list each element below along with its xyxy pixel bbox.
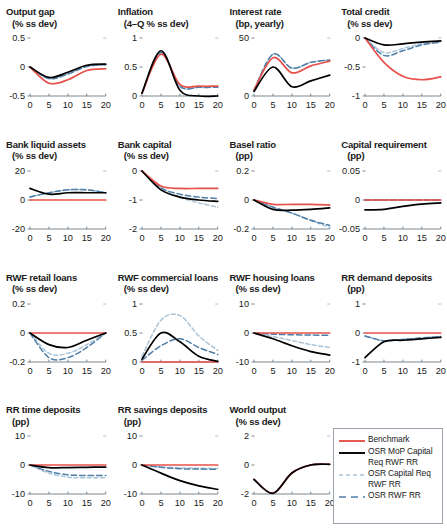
svg-text:15: 15 <box>193 365 203 375</box>
svg-text:5: 5 <box>382 100 387 110</box>
panel-subtitle: (% ss dev) <box>236 283 336 295</box>
panel-title: Interest rate <box>230 6 334 18</box>
svg-text:5: 5 <box>158 365 163 375</box>
svg-text:10: 10 <box>63 365 73 375</box>
svg-text:20: 20 <box>101 232 111 242</box>
panel-subtitle: (pp) <box>236 150 336 162</box>
svg-text:15: 15 <box>193 100 203 110</box>
svg-text:0: 0 <box>139 232 144 242</box>
legend-swatch-icon <box>338 434 368 443</box>
panel-subtitle: (% ss dev) <box>12 283 112 295</box>
chart-panel: Bank liquid assets(% ss dev)05101520200-… <box>0 133 112 266</box>
svg-text:10: 10 <box>286 365 296 375</box>
chart-legend: BenchmarkOSR MoP Capital Req RWF RROSR C… <box>333 428 443 524</box>
panel-subtitle: (% ss dev) <box>236 416 336 428</box>
panel-plot-area: 0510152010.50 <box>112 296 224 382</box>
svg-text:0: 0 <box>363 365 368 375</box>
svg-text:0: 0 <box>20 328 25 338</box>
svg-text:-1: -1 <box>352 91 360 101</box>
panel-subtitle: (pp) <box>124 416 224 428</box>
svg-text:20: 20 <box>101 498 111 508</box>
chart-panel: Bank capital(% ss dev)051015200-1-2 <box>112 133 224 266</box>
panel-subtitle: (4–Q % ss dev) <box>124 18 224 30</box>
panel-title: Basel ratio <box>230 139 334 151</box>
svg-text:-0.2: -0.2 <box>9 357 25 367</box>
legend-item: OSR Capital Req RWF RR <box>338 468 439 489</box>
svg-text:10: 10 <box>175 498 185 508</box>
chart-panel: RWF commercial loans(% ss dev)0510152010… <box>112 266 224 399</box>
svg-text:10: 10 <box>398 232 408 242</box>
svg-text:10: 10 <box>175 232 185 242</box>
svg-text:0.5: 0.5 <box>12 33 25 43</box>
series-line <box>142 332 218 361</box>
chart-panel: Capital requirement(pp)051015200.050-0.0… <box>335 133 447 266</box>
series-line <box>254 333 330 355</box>
panel-title: RR time deposits <box>6 404 110 416</box>
series-line <box>254 464 330 493</box>
svg-text:0: 0 <box>363 100 368 110</box>
panel-plot-area: 05101520100-10 <box>224 296 336 382</box>
svg-text:0: 0 <box>132 461 137 471</box>
panel-title: RR demand deposits <box>341 272 445 284</box>
legend-item: OSR MoP Capital Req RWF RR <box>338 446 439 467</box>
svg-text:-1: -1 <box>129 195 137 205</box>
svg-text:-10: -10 <box>235 357 248 367</box>
svg-text:15: 15 <box>305 498 315 508</box>
svg-text:50: 50 <box>238 33 248 43</box>
svg-text:0: 0 <box>355 33 360 43</box>
panel-subtitle: (% ss dev) <box>124 150 224 162</box>
legend-label: OSR RWF RR <box>368 490 421 501</box>
svg-text:10: 10 <box>63 498 73 508</box>
svg-text:0: 0 <box>132 357 137 367</box>
svg-text:5: 5 <box>46 100 51 110</box>
svg-text:5: 5 <box>158 100 163 110</box>
legend-item: OSR RWF RR <box>338 490 439 501</box>
svg-text:0: 0 <box>243 328 248 338</box>
svg-text:0: 0 <box>20 461 25 471</box>
svg-text:-2: -2 <box>129 224 137 234</box>
svg-text:0: 0 <box>251 100 256 110</box>
chart-panel: RWF retail loans(% ss dev)051015200.20-0… <box>0 266 112 399</box>
legend-label: Benchmark <box>368 434 409 445</box>
panel-title: RWF commercial loans <box>118 272 222 284</box>
panel-subtitle: (% ss dev) <box>124 283 224 295</box>
svg-text:10: 10 <box>63 100 73 110</box>
svg-text:20: 20 <box>101 100 111 110</box>
svg-text:10: 10 <box>175 365 185 375</box>
svg-text:0: 0 <box>27 498 32 508</box>
series-line <box>254 464 330 493</box>
panel-subtitle: (% ss dev) <box>347 18 447 30</box>
legend-swatch-icon <box>338 446 368 455</box>
svg-text:15: 15 <box>82 498 92 508</box>
series-line <box>365 203 441 210</box>
legend-swatch-icon <box>338 468 368 477</box>
svg-text:10: 10 <box>286 100 296 110</box>
svg-text:-10: -10 <box>123 490 136 500</box>
series-line <box>365 337 441 357</box>
panel-title: Bank capital <box>118 139 222 151</box>
svg-text:0: 0 <box>243 91 248 101</box>
svg-text:10: 10 <box>127 432 137 442</box>
svg-text:5: 5 <box>270 365 275 375</box>
svg-text:10: 10 <box>63 232 73 242</box>
svg-text:0: 0 <box>20 62 25 72</box>
svg-text:-2: -2 <box>240 490 248 500</box>
svg-text:0: 0 <box>20 195 25 205</box>
svg-text:0: 0 <box>132 166 137 176</box>
svg-text:5: 5 <box>270 232 275 242</box>
panel-plot-area: 05101520200-20 <box>0 163 112 249</box>
svg-text:15: 15 <box>82 232 92 242</box>
svg-text:15: 15 <box>417 365 427 375</box>
svg-text:0: 0 <box>139 100 144 110</box>
svg-text:10: 10 <box>398 100 408 110</box>
svg-text:0: 0 <box>355 328 360 338</box>
panel-title: Total credit <box>341 6 445 18</box>
svg-text:2: 2 <box>243 432 248 442</box>
svg-text:20: 20 <box>436 365 446 375</box>
svg-text:20: 20 <box>436 100 446 110</box>
svg-text:0: 0 <box>363 232 368 242</box>
svg-text:5: 5 <box>158 498 163 508</box>
svg-text:20: 20 <box>212 232 222 242</box>
svg-text:5: 5 <box>46 232 51 242</box>
svg-text:5: 5 <box>270 498 275 508</box>
